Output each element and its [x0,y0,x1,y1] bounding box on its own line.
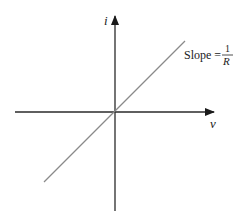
iv-characteristic-diagram: i v Slope = 1 R [0,0,241,212]
slope-denominator: R [222,55,230,67]
x-axis-label: v [210,116,216,131]
slope-numerator: 1 [225,43,230,54]
slope-label: Slope = [184,48,221,62]
y-axis-label: i [104,13,108,28]
